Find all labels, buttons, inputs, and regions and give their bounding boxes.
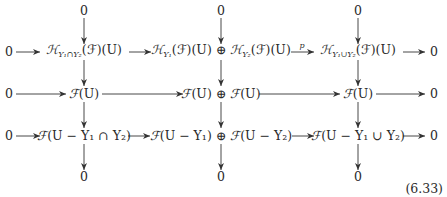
- row3-left-zero: 0: [5, 129, 13, 143]
- equation-number: (6.33): [405, 181, 443, 196]
- row3-cell3-F-complement-cup: ℱ(U − Y₁ ∪ Y₂): [311, 129, 405, 143]
- top-zero-2: 0: [217, 4, 225, 18]
- row1-cell1-H-Y1capY2: ℋY₁∩Y₂(ℱ)(U): [46, 43, 122, 62]
- row2-left-zero: 0: [5, 87, 13, 101]
- arrow-label-p: p: [299, 41, 304, 50]
- row1-left-zero: 0: [5, 45, 13, 59]
- bottom-zero-3: 0: [354, 170, 362, 184]
- row1-cell2-H-sum: ℋY₁(ℱ)(U) ⊕ ℋY₂(ℱ)(U): [151, 43, 291, 62]
- top-zero-3: 0: [354, 4, 362, 18]
- row3-cell1-F-complement-cap: ℱ(U − Y₁ ∩ Y₂): [37, 129, 131, 143]
- top-zero-1: 0: [80, 4, 88, 18]
- row3-cell2-F-complement-sum: ℱ(U − Y₁) ⊕ ℱ(U − Y₂): [150, 129, 292, 143]
- row2-cell2-F-sum: ℱ(U) ⊕ ℱ(U): [181, 87, 260, 101]
- row1-cell3-H-Y1cupY2: ℋY₁∪Y₂(ℱ)(U): [320, 43, 396, 62]
- row3-right-zero: 0: [430, 129, 438, 143]
- bottom-zero-2: 0: [217, 170, 225, 184]
- row2-cell3-F-U: ℱ(U): [343, 87, 373, 101]
- bottom-zero-1: 0: [80, 170, 88, 184]
- row2-cell1-F-U: ℱ(U): [69, 87, 99, 101]
- row1-right-zero: 0: [430, 45, 438, 59]
- row2-right-zero: 0: [430, 87, 438, 101]
